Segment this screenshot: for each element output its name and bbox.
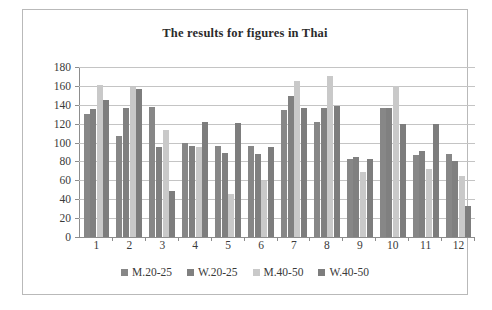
x-axis-tick-label: 8 [314, 239, 340, 251]
legend-item[interactable]: W.20-25 [187, 266, 238, 278]
legend-item[interactable]: M.40-50 [253, 266, 304, 278]
bar[interactable] [90, 109, 96, 237]
y-axis-tick-label: 80 [25, 155, 71, 167]
x-axis-tick-label: 12 [446, 239, 472, 251]
bar[interactable] [248, 146, 254, 237]
bar-group [80, 67, 113, 237]
bar[interactable] [465, 206, 471, 237]
bar[interactable] [97, 85, 103, 237]
bar-group [179, 67, 212, 237]
bar[interactable] [419, 151, 425, 237]
bar[interactable] [202, 122, 208, 237]
y-axis-tick-label: 160 [25, 80, 71, 92]
bar[interactable] [294, 81, 300, 237]
y-axis-tick-label: 60 [25, 174, 71, 186]
x-axis-tick-label: 7 [281, 239, 307, 251]
bar-group [278, 67, 311, 237]
bar[interactable] [393, 86, 399, 237]
plot-area [79, 67, 475, 237]
x-axis-labels: 123456789101112 [80, 239, 475, 257]
legend-label: W.20-25 [198, 266, 238, 278]
y-axis-tick-label: 0 [25, 231, 71, 243]
bar[interactable] [360, 172, 366, 237]
legend-item[interactable]: M.20-25 [121, 266, 172, 278]
bar-group [245, 67, 278, 237]
bar[interactable] [268, 147, 274, 237]
bar[interactable] [228, 194, 234, 237]
y-axis-tick-label: 40 [25, 193, 71, 205]
y-axis-tick-mark [75, 180, 79, 181]
bar[interactable] [353, 157, 359, 237]
bar[interactable] [446, 154, 452, 237]
y-axis-tick-label: 180 [25, 61, 71, 73]
y-axis-tick-label: 120 [25, 118, 71, 130]
x-axis-tick-label: 11 [413, 239, 439, 251]
bar[interactable] [123, 108, 129, 237]
x-axis-tick-label: 1 [83, 239, 109, 251]
bar[interactable] [347, 159, 353, 237]
bar[interactable] [163, 130, 169, 237]
bar[interactable] [156, 147, 162, 237]
bar[interactable] [215, 146, 221, 237]
bar[interactable] [327, 76, 333, 237]
legend-label: W.40-50 [329, 266, 369, 278]
bar[interactable] [386, 108, 392, 237]
bar-group [310, 67, 343, 237]
bar[interactable] [169, 191, 175, 237]
y-axis-tick-mark [75, 67, 79, 68]
bar[interactable] [459, 176, 465, 237]
y-axis-tick-mark [75, 218, 79, 219]
bar[interactable] [334, 106, 340, 237]
x-axis-tick-label: 6 [248, 239, 274, 251]
legend-label: M.40-50 [264, 266, 304, 278]
bar[interactable] [255, 154, 261, 237]
bar[interactable] [235, 123, 241, 237]
y-axis-tick-mark [75, 199, 79, 200]
bar[interactable] [182, 143, 188, 237]
bar[interactable] [314, 122, 320, 237]
bar[interactable] [321, 108, 327, 237]
bar-group [146, 67, 179, 237]
bar[interactable] [380, 108, 386, 237]
bar[interactable] [400, 124, 406, 237]
bar[interactable] [136, 89, 142, 237]
y-axis-tick-mark [75, 86, 79, 87]
bar-group [409, 67, 442, 237]
y-axis-tick-mark [75, 124, 79, 125]
bar[interactable] [452, 161, 458, 237]
bar[interactable] [84, 114, 90, 237]
x-axis-tick-label: 10 [380, 239, 406, 251]
bar[interactable] [196, 147, 202, 237]
y-axis-tick-label: 100 [25, 137, 71, 149]
bar-group [212, 67, 245, 237]
bar[interactable] [149, 107, 155, 237]
bar[interactable] [433, 124, 439, 237]
y-axis-tick-label: 140 [25, 99, 71, 111]
bar[interactable] [261, 181, 267, 237]
x-axis-tick-label: 3 [149, 239, 175, 251]
x-axis-tick-label: 5 [215, 239, 241, 251]
y-axis-tick-mark [75, 105, 79, 106]
y-axis-labels: 180160140120100806040200 [23, 67, 75, 237]
chart-title: The results for figures in Thai [23, 26, 467, 41]
bar[interactable] [281, 110, 287, 238]
bar[interactable] [222, 153, 228, 237]
bar-group [113, 67, 146, 237]
legend-swatch-icon [318, 269, 325, 276]
bar[interactable] [116, 136, 122, 237]
y-axis-tick-mark [75, 143, 79, 144]
legend-item[interactable]: W.40-50 [318, 266, 369, 278]
legend-swatch-icon [187, 269, 194, 276]
bar[interactable] [130, 87, 136, 237]
bar[interactable] [367, 159, 373, 237]
bar[interactable] [301, 108, 307, 237]
bar[interactable] [189, 146, 195, 237]
bar-group [376, 67, 409, 237]
bar[interactable] [413, 155, 419, 237]
bar[interactable] [103, 100, 109, 237]
bar[interactable] [426, 169, 432, 237]
legend-swatch-icon [121, 269, 128, 276]
chart-frame: The results for figures in Thai 18016014… [22, 9, 468, 295]
bar[interactable] [288, 96, 294, 237]
y-axis-tick-mark [75, 161, 79, 162]
